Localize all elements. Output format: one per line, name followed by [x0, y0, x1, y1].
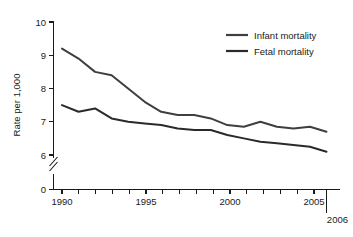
x-tick-label-2000: 2000: [219, 196, 240, 207]
y-tick-label-9: 9: [41, 50, 46, 61]
legend-item-infant-mortality[interactable]: Infant mortality: [226, 30, 317, 41]
y-tick-label-6: 6: [41, 150, 46, 161]
series-group: [62, 49, 327, 152]
y-tick-label-10: 10: [35, 17, 46, 28]
chart-canvas: Rate per 1,000 10 9 8 7 6 0: [0, 0, 353, 237]
y-axis-title: Rate per 1,000: [11, 74, 22, 137]
y-tick-label-0: 0: [41, 184, 46, 195]
series-line-infant-mortality: [62, 49, 327, 132]
chart-legend: Infant mortality Fetal mortality: [226, 30, 317, 57]
y-axis-break-icon: [50, 157, 58, 171]
y-tick-label-7: 7: [41, 116, 46, 127]
legend-item-fetal-mortality[interactable]: Fetal mortality: [226, 46, 314, 57]
x-tick-label-1990: 1990: [51, 196, 72, 207]
legend-label-fetal-mortality: Fetal mortality: [254, 46, 314, 57]
legend-label-infant-mortality: Infant mortality: [254, 30, 317, 41]
x-tick-label-2005: 2005: [303, 196, 324, 207]
x-tick-label-2006: 2006: [327, 214, 348, 225]
x-tick-label-1995: 1995: [135, 196, 156, 207]
y-axis-tick-labels: 10 9 8 7 6 0: [35, 17, 46, 196]
x-axis-tick-labels: 1990 1995 2000 2005 2006: [51, 196, 348, 225]
x-axis-ticks: [62, 190, 314, 195]
y-tick-label-8: 8: [41, 83, 46, 94]
line-chart-figure: Rate per 1,000 10 9 8 7 6 0: [0, 0, 353, 237]
